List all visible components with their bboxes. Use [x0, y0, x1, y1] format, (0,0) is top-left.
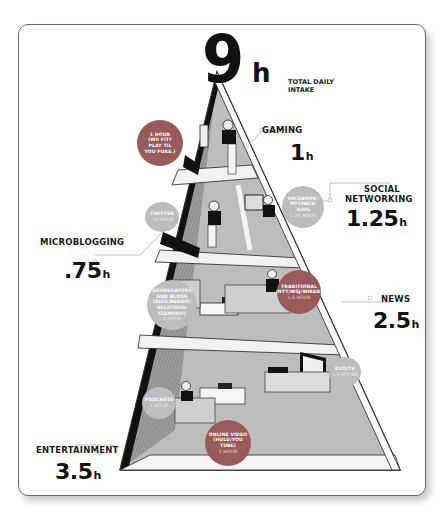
podcasts-bubble: PODCASTS 1 HOUR — [142, 387, 176, 419]
bubble-line: YOU PUKE.) — [144, 149, 175, 155]
social-networking-value-unit: h — [399, 216, 406, 229]
total-label-line1: TOTAL DAILY — [288, 78, 334, 86]
microblogging-label: MICROBLOGGING — [40, 237, 124, 247]
microblogging-value: .75h — [64, 260, 110, 286]
bubble-hours: 1 HOUR — [150, 403, 169, 409]
gaming-value-unit: h — [306, 150, 313, 163]
bubble-hours: 1 HOUR — [163, 316, 182, 322]
social-networking-label: SOCIAL NETWORKING — [345, 184, 400, 204]
online-video-bubble: ONLINE VIDEO (HULU/YOU TUBE) 1 HOUR — [205, 420, 251, 466]
social-networking-label-line1: SOCIAL — [345, 184, 400, 194]
social-networking-value: 1.25h — [346, 208, 407, 234]
total-label-line2: INTAKE — [288, 86, 334, 94]
bubble-hours: 1 HOUR — [219, 449, 238, 455]
entertainment-label: ENTERTAINMENT — [36, 445, 118, 455]
twitter-bubble: TWITTER .75 HOUR — [145, 202, 179, 232]
bubble-line: (HULU/YOU TUBE) — [205, 437, 251, 448]
entertainment-value: 3.5h — [55, 461, 101, 487]
bubble-hours: 1.25 HOUR — [290, 213, 316, 219]
total-hours-unit: h — [252, 60, 271, 86]
bubble-hours: 1.5 HOUR — [287, 295, 310, 301]
gaming-label: GAMING — [262, 125, 302, 135]
bubble-hours: 1.5 HOURS — [332, 372, 358, 378]
total-hours-value: 9 — [202, 30, 242, 90]
entertainment-value-number: 3.5 — [55, 459, 92, 484]
microblogging-value-unit: h — [102, 268, 109, 281]
gaming-value-number: 1 — [290, 140, 305, 165]
facebook-bubble: FACEBOOK/ MYSPACE/ NING 1.25 HOUR — [282, 186, 324, 228]
news-value-unit: h — [411, 318, 418, 331]
social-networking-label-line2: NETWORKING — [345, 194, 400, 204]
microblogging-value-number: .75 — [64, 258, 101, 283]
news-value: 2.5h — [373, 310, 419, 336]
gaming-value: 1h — [290, 142, 313, 168]
news-value-number: 2.5 — [373, 308, 410, 333]
news-label: NEWS — [381, 294, 410, 304]
social-networking-value-number: 1.25 — [346, 206, 398, 231]
total-label: TOTAL DAILY INTAKE — [288, 78, 334, 94]
entertainment-value-unit: h — [93, 469, 100, 482]
dvd-tv-bubble: DVD/TV 1.5 HOURS — [329, 357, 361, 387]
traditional-news-bubble: TRADITIONAL (NYT/WSJ/WIRED) 1.5 HOUR — [277, 270, 321, 314]
bubble-hours: .75 HOUR — [150, 217, 173, 223]
aggregators-bubble: AGGREGATORS AND BLOGS (DIGG/REDDIT/ DELI… — [147, 280, 197, 330]
gaming-bubble: 1 HOUR (WII FIT? PLAY TIL YOU PUKE.) — [137, 120, 183, 166]
